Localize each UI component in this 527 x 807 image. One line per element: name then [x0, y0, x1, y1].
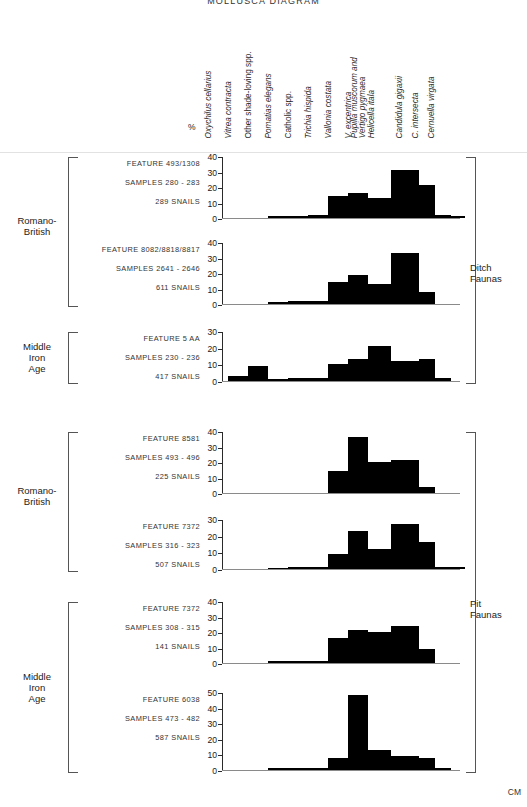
bar [348, 695, 368, 770]
species-axis-labels: Oxychilus cellariusVitrea contractaOther… [205, 28, 460, 138]
y-tick-label: 30 [207, 515, 217, 525]
feature-label: FEATURE 493/1308 [30, 159, 200, 169]
samples-label: SAMPLES 493 - 496 [30, 453, 200, 463]
y-tick-label: 40 [207, 704, 217, 714]
y-tick [218, 259, 222, 260]
bar [451, 567, 465, 569]
bar [268, 379, 288, 381]
y-tick-label: 20 [207, 458, 217, 468]
y-tick [218, 243, 222, 244]
y-tick [218, 618, 222, 619]
panel-caption: FEATURE 8581SAMPLES 493 - 496225 SNAILS [30, 434, 200, 491]
y-tick [218, 494, 222, 495]
bar [391, 170, 419, 218]
panel-caption: FEATURE 6038SAMPLES 473 - 482587 SNAILS [30, 695, 200, 752]
bar-series [223, 157, 460, 218]
bar [348, 359, 368, 381]
y-tick-label: 10 [207, 360, 217, 370]
bar [268, 216, 288, 218]
y-tick-label: 30 [207, 613, 217, 623]
y-tick-label: 20 [207, 344, 217, 354]
y-tick-label: 10 [207, 644, 217, 654]
bar [288, 567, 308, 569]
bar [368, 632, 391, 663]
bar-series [223, 602, 460, 663]
bar [348, 630, 368, 663]
y-tick-label: 40 [207, 152, 217, 162]
y-tick [218, 463, 222, 464]
bar [435, 378, 451, 381]
y-tick [218, 649, 222, 650]
bar-series [223, 693, 460, 770]
samples-label: SAMPLES 280 - 283 [30, 178, 200, 188]
y-tick-label: 10 [207, 474, 217, 484]
era-bracket [68, 432, 78, 572]
y-tick-label: 20 [207, 269, 217, 279]
species-label: Trichia hispida [305, 86, 313, 138]
y-tick [218, 709, 222, 710]
bar [308, 378, 328, 381]
bar [248, 366, 268, 381]
bar [451, 216, 465, 218]
bar [308, 301, 328, 304]
bar [419, 649, 435, 663]
y-tick-label: 20 [207, 183, 217, 193]
plot-area: 010203040 [222, 243, 460, 305]
bar [391, 626, 419, 663]
y-tick-label: 0 [212, 377, 217, 387]
y-tick-label: 10 [207, 285, 217, 295]
bar [419, 758, 435, 770]
chart-panel: 010203040 [222, 432, 460, 494]
bar [328, 554, 348, 569]
bar [419, 542, 435, 569]
panel-caption: FEATURE 7372SAMPLES 316 - 323507 SNAILS [30, 522, 200, 579]
y-tick [218, 570, 222, 571]
era-bracket [68, 157, 78, 307]
y-tick [218, 693, 222, 694]
bar [328, 196, 348, 218]
plot-area: 0102030 [222, 520, 460, 570]
scale-label: CM [508, 787, 521, 797]
era-bracket [68, 332, 78, 384]
bar [268, 768, 288, 770]
bar [391, 253, 419, 304]
chart-panel: 010203040 [222, 157, 460, 219]
bar [308, 567, 328, 570]
y-tick-label: 40 [207, 238, 217, 248]
bar [328, 758, 348, 770]
y-tick-label: 0 [212, 214, 217, 224]
era-label: MiddleIronAge [8, 671, 66, 704]
group-label: DitchFaunas [470, 262, 502, 284]
y-tick-label: 0 [212, 565, 217, 575]
y-tick-label: 0 [212, 489, 217, 499]
plot-area: 010203040 [222, 157, 460, 219]
samples-label: SAMPLES 308 - 315 [30, 623, 200, 633]
species-label: Vallonia costata [325, 81, 333, 139]
species-label: Catholic spp. [285, 91, 293, 138]
bar [328, 638, 348, 663]
y-tick-label: 50 [207, 688, 217, 698]
y-tick [218, 432, 222, 433]
bar [288, 768, 308, 770]
species-label: C. intersecta [412, 92, 420, 138]
bar [368, 549, 391, 569]
chart-panel: 010203040 [222, 602, 460, 664]
era-bracket [68, 602, 78, 773]
species-label: Oxychilus cellarius [205, 70, 213, 138]
plot-area: 0102030 [222, 332, 460, 382]
y-tick [218, 479, 222, 480]
y-tick-label: 20 [207, 532, 217, 542]
bar [368, 346, 391, 381]
y-tick [218, 664, 222, 665]
species-label: Vitrea contracta [225, 81, 233, 138]
group-label: PitFaunas [470, 598, 502, 620]
percent-axis-label: % [188, 122, 196, 132]
snails-label: 289 SNAILS [30, 197, 200, 207]
bar [328, 282, 348, 304]
panel-caption: FEATURE 8082/8818/8817SAMPLES 2641 - 264… [30, 245, 200, 302]
y-tick [218, 771, 222, 772]
y-tick [218, 382, 222, 383]
bar-series [223, 520, 460, 569]
panel-caption: FEATURE 493/1308SAMPLES 280 - 283289 SNA… [30, 159, 200, 216]
y-tick-label: 30 [207, 443, 217, 453]
